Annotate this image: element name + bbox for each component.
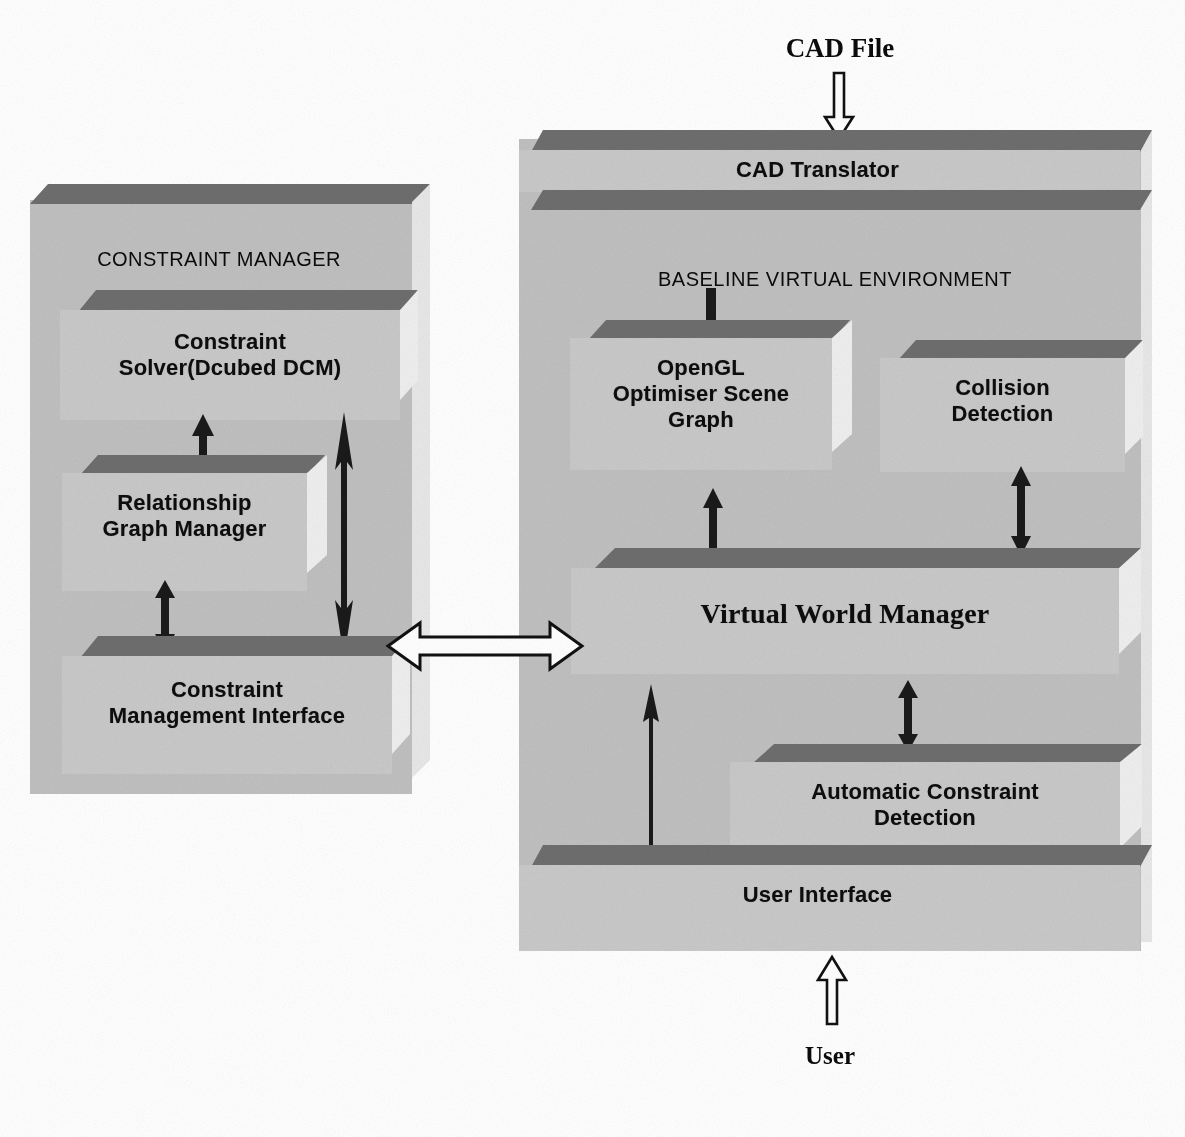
relationship-graph-manager-line2: Graph Manager (62, 517, 307, 542)
automatic-constraint-detection-line2: Detection (730, 806, 1120, 831)
collision-detection-block: Collision Detection (880, 340, 1160, 472)
opengl-scene-graph-line2: Optimiser Scene (570, 382, 832, 407)
collision-detection-line2: Detection (880, 402, 1125, 427)
user-input-arrow (815, 955, 849, 1025)
opengl-optimiser-scene-graph-block: OpenGL Optimiser Scene Graph (570, 320, 870, 470)
virtual-world-manager-label: Virtual World Manager (571, 598, 1119, 629)
relationship-graph-manager-block: Relationship Graph Manager (62, 455, 362, 591)
cad-translator-label: CAD Translator (507, 158, 1128, 183)
collision-detection-line1: Collision (880, 376, 1125, 401)
constraint-management-interface-line1: Constraint (62, 678, 392, 703)
opengl-scene-graph-line3: Graph (570, 408, 832, 433)
user-interface-block: User Interface (519, 845, 1152, 951)
cad-file-label: CAD File (740, 33, 940, 64)
panel-link-arrow (386, 615, 584, 677)
constraint-solver-line1: Constraint (60, 330, 400, 355)
relationship-graph-manager-line1: Relationship (62, 491, 307, 516)
collision-to-vwm-arrow (1008, 466, 1034, 556)
ui-to-vwm-arrow (640, 684, 662, 866)
cad-translator-block: CAD Translator (519, 130, 1152, 210)
automatic-constraint-detection-line1: Automatic Constraint (730, 780, 1120, 805)
constraint-management-interface-line2: Management Interface (62, 704, 392, 729)
vwm-to-acd-arrow (895, 680, 921, 752)
constraint-solver-line2: Solver(Dcubed DCM) (60, 356, 400, 381)
opengl-scene-graph-line1: OpenGL (570, 356, 832, 381)
baseline-virtual-environment-title: BASELINE VIRTUAL ENVIRONMENT (600, 268, 1070, 291)
user-interface-label: User Interface (507, 883, 1128, 908)
virtual-world-manager-block: Virtual World Manager (571, 548, 1161, 674)
constraint-manager-title: CONSTRAINT MANAGER (44, 248, 394, 271)
diagram-canvas: CAD File CAD Translator BASELINE VIRTUAL… (0, 0, 1185, 1137)
user-label: User (760, 1042, 900, 1070)
constraint-manager-panel-top (30, 184, 430, 204)
constraint-solver-block: Constraint Solver(Dcubed DCM) (60, 290, 430, 420)
constraint-management-interface-block: Constraint Management Interface (62, 636, 422, 774)
